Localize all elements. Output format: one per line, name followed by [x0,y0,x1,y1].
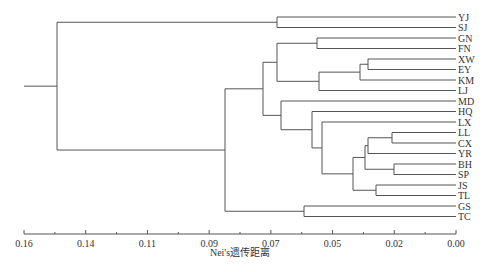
dendrogram-chart: YJSJGNFNXWEYKMLJMDHQLXLLCXYRBHSPJSTLGSTC… [0,0,483,272]
leaf-labels: YJSJGNFNXWEYKMLJMDHQLXLLCXYRBHSPJSTLGSTC [458,12,475,223]
x-tick-label: 0.11 [139,238,156,249]
x-tick-label: 0.14 [77,238,95,249]
leaf-label: CX [458,138,473,149]
leaf-label: LL [458,127,470,138]
x-tick-label: 0.16 [15,238,33,249]
leaf-label: EY [458,64,471,75]
leaf-label: KM [458,75,474,86]
leaf-label: MD [458,96,474,107]
dendrogram-branches [24,17,456,217]
leaf-label: JS [458,180,467,191]
leaf-label: XW [458,54,475,65]
x-tick-label: 0.02 [386,238,404,249]
leaf-label: YJ [458,12,469,23]
leaf-label: SJ [458,22,468,33]
leaf-label: TC [458,211,471,222]
leaf-label: LJ [458,85,468,96]
leaf-label: LX [458,117,472,128]
leaf-label: SP [458,169,470,180]
leaf-label: FN [458,43,471,54]
leaf-label: TL [458,190,470,201]
leaf-label: YR [458,148,472,159]
leaf-label: BH [458,159,472,170]
leaf-label: HQ [458,106,473,117]
x-axis-title: Nei's遗传距离 [210,246,270,258]
leaf-label: GN [458,33,472,44]
x-tick-label: 0.05 [324,238,342,249]
leaf-label: GS [458,201,471,212]
x-tick-label: 0.00 [447,238,465,249]
